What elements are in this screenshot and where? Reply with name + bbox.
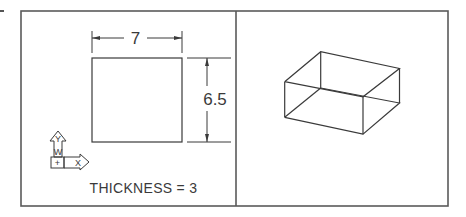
outer-frame	[21, 11, 448, 206]
ucs-w-label: W	[54, 147, 63, 157]
isometric-box	[285, 52, 400, 135]
cad-drawing: 7 6.5 Y W + X THICKNESS = 3	[0, 0, 466, 217]
right-viewport	[285, 52, 400, 135]
thickness-caption: THICKNESS = 3	[90, 180, 198, 196]
height-dimension-label: 6.5	[203, 90, 227, 109]
ucs-icon: Y W + X	[50, 131, 89, 170]
width-dimension: 7	[92, 29, 182, 53]
ucs-x-label: X	[75, 158, 81, 168]
ucs-y-label: Y	[55, 134, 61, 144]
plan-rectangle	[92, 58, 182, 142]
width-dimension-label: 7	[131, 29, 140, 48]
ucs-origin-label: +	[55, 158, 60, 168]
left-viewport: 7 6.5 Y W + X THICKNESS = 3	[50, 29, 231, 196]
height-dimension: 6.5	[187, 58, 231, 142]
